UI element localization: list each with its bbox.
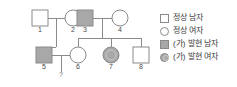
legend-label-normal-female: 정상 여자 [173, 26, 203, 36]
pedigree-figure: 1 2 3 4 5 6 7 8 ? 정상 남자 정상 여자 (가) 발현 남자 … [0, 0, 237, 87]
legend-label-affected-female: (가) 발현 여자 [173, 52, 218, 62]
legend-label-normal-male: 정상 남자 [173, 13, 203, 23]
individual-3-label: 3 [78, 26, 92, 34]
individual-8-label: 8 [134, 63, 148, 71]
individual-1-label: 1 [33, 26, 47, 34]
circle-open-icon [160, 27, 169, 36]
individual-5-label: 5 [37, 63, 51, 71]
individual-1-symbol [32, 10, 48, 26]
legend-label-affected-male: (가) 발현 남자 [173, 39, 218, 49]
legend: 정상 남자 정상 여자 (가) 발현 남자 (가) 발현 여자 [160, 12, 237, 64]
circle-filled-icon [160, 53, 169, 62]
pedigree-svg [0, 0, 158, 87]
individual-6-label: 6 [71, 63, 85, 71]
square-open-icon [160, 14, 169, 23]
individual-5-symbol [36, 47, 52, 63]
legend-item-normal-female: 정상 여자 [160, 25, 237, 37]
individual-8-symbol [133, 47, 149, 63]
individual-6-symbol [70, 47, 86, 63]
individual-4-symbol [112, 10, 128, 26]
individual-4-label: 4 [113, 26, 127, 34]
unknown-child-marker: ? [56, 71, 66, 79]
legend-item-affected-female: (가) 발현 여자 [160, 51, 237, 63]
legend-item-affected-male: (가) 발현 남자 [160, 38, 237, 50]
square-filled-icon [160, 40, 169, 49]
legend-item-normal-male: 정상 남자 [160, 12, 237, 24]
pedigree-diagram: 1 2 3 4 5 6 7 8 ? [0, 0, 158, 87]
individual-7-label: 7 [104, 63, 118, 71]
individual-7-symbol [103, 47, 119, 63]
individual-3-symbol [77, 10, 93, 26]
